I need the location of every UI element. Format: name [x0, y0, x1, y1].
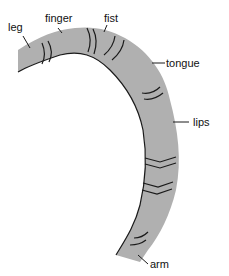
- label-tongue: tongue: [166, 57, 200, 69]
- label-lips: lips: [193, 116, 210, 128]
- label-finger: finger: [45, 12, 73, 24]
- motor-strip-diagram: leg finger fist tongue lips arm: [0, 0, 229, 276]
- label-arm: arm: [150, 258, 169, 270]
- label-leg: leg: [8, 21, 23, 33]
- label-fist: fist: [104, 12, 118, 24]
